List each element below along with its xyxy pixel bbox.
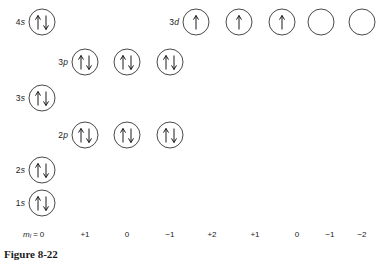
orbital-filling-diagram: 4s3d3p3s2p2s1s ml =0+10−1+2+10−1−2 Figur…	[0, 0, 376, 262]
orbital-3p-1	[72, 49, 99, 76]
electron-spins	[30, 158, 55, 183]
ml-tick-8: −1	[325, 230, 334, 239]
electron-spins	[30, 10, 55, 35]
electron-spins	[115, 50, 140, 75]
orbital-3d-1	[183, 9, 210, 36]
orbital-3d-2	[226, 9, 253, 36]
subshell-letter: p	[63, 130, 68, 140]
subshell-label-3d: 3d	[169, 17, 182, 27]
electron-spins	[350, 10, 375, 35]
electron-spins	[73, 50, 98, 75]
electron-spins	[158, 50, 183, 75]
electron-spins	[184, 10, 209, 35]
subshell-label-2s: 2s	[16, 165, 28, 175]
subshell-letter: s	[21, 198, 25, 208]
orbital-3d-5	[349, 9, 376, 36]
subshell-label-2p: 2p	[58, 130, 71, 140]
orbital-4s-1	[29, 9, 56, 36]
ml-tick-4: −1	[165, 230, 174, 239]
electron-spins	[30, 191, 55, 216]
electron-spins	[227, 10, 252, 35]
subshell-label-4s: 4s	[16, 17, 28, 27]
ml-tick-6: +1	[250, 230, 259, 239]
subshell-letter: d	[174, 17, 179, 27]
subshell-label-1s: 1s	[16, 198, 28, 208]
orbital-2p-2	[114, 122, 141, 149]
orbital-3p-3	[157, 49, 184, 76]
ml-tick-2: +1	[80, 230, 89, 239]
ml-tick-7: 0	[295, 230, 299, 239]
orbital-2p-1	[72, 122, 99, 149]
ml-symbol: m	[23, 230, 30, 239]
electron-spins	[270, 10, 295, 35]
ml-equals-sign: =	[31, 230, 38, 239]
electron-spins	[158, 123, 183, 148]
subshell-letter: s	[21, 165, 25, 175]
subshell-letter: s	[21, 17, 25, 27]
electron-spins	[30, 86, 55, 111]
ml-tick-5: +2	[207, 230, 216, 239]
orbital-3p-2	[114, 49, 141, 76]
orbital-2s-1	[29, 157, 56, 184]
electron-spins	[115, 123, 140, 148]
figure-caption: Figure 8-22	[4, 248, 58, 260]
subshell-label-3p: 3p	[58, 57, 71, 67]
orbital-3d-4	[308, 9, 335, 36]
electron-spins	[73, 123, 98, 148]
orbital-1s-1	[29, 190, 56, 217]
ml-tick-3: 0	[125, 230, 129, 239]
subshell-label-3s: 3s	[16, 93, 28, 103]
electron-spins	[309, 10, 334, 35]
subshell-letter: s	[21, 93, 25, 103]
subshell-letter: p	[63, 57, 68, 67]
ml-tick-1: 0	[40, 230, 44, 239]
orbital-2p-3	[157, 122, 184, 149]
orbital-3s-1	[29, 85, 56, 112]
ml-tick-9: −2	[357, 230, 366, 239]
orbital-3d-3	[269, 9, 296, 36]
